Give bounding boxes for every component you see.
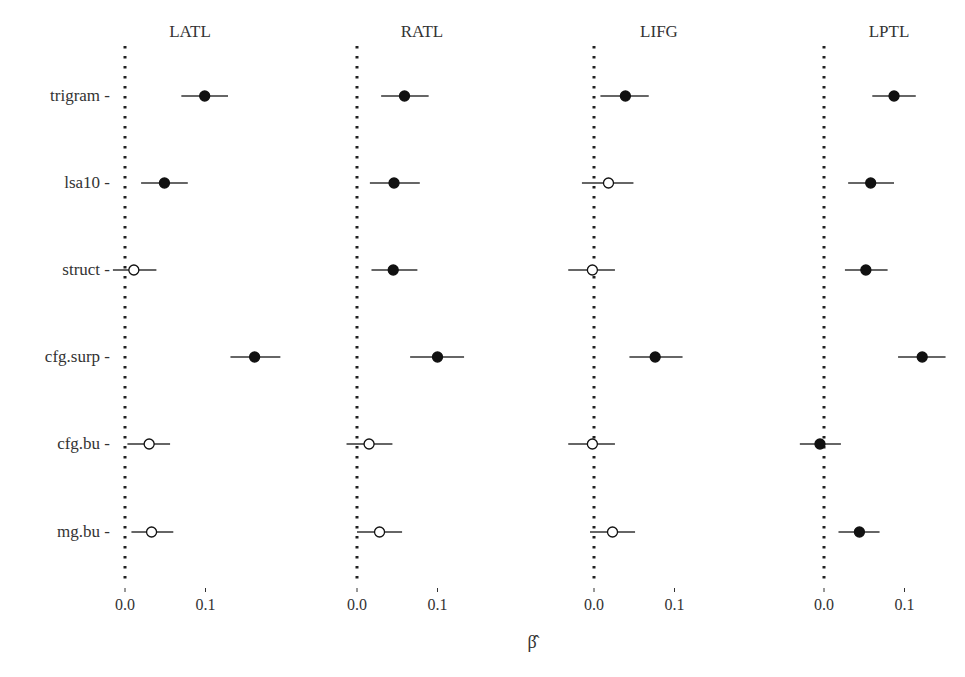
estimate-point-lsa10 [159,178,169,188]
estimate-point-lsa10 [866,178,876,188]
x-tick-label: 0.0 [584,596,604,613]
estimate-point-lsa10 [603,178,613,188]
y-label-trigram: trigram - [50,86,110,105]
y-axis-labels: trigram -lsa10 -struct -cfg.surp -cfg.bu… [45,86,110,541]
panel-ratl: 0.00.1 [347,46,465,613]
forest-plot: LATLRATLLIFGLPTL trigram -lsa10 -struct … [0,0,965,677]
x-tick-label: 0.0 [347,596,367,613]
x-tick-label: 0.1 [196,596,216,613]
estimate-point-struct [388,265,398,275]
estimate-point-mg-bu [375,527,385,537]
estimate-point-struct [587,265,597,275]
y-label-mg-bu: mg.bu - [57,522,110,541]
estimate-point-trigram [889,91,899,101]
panel-latl: 0.00.1 [113,46,280,613]
y-label-struct: struct - [62,260,110,279]
panel-title-lifg: LIFG [640,22,678,41]
panels: 0.00.10.00.10.00.10.00.1 [113,46,946,613]
y-label-lsa10: lsa10 - [64,173,110,192]
estimate-point-cfg-surp [250,352,260,362]
estimate-point-cfg-bu [587,439,597,449]
estimate-point-cfg-bu [144,439,154,449]
estimate-point-cfg-bu [815,439,825,449]
estimate-point-trigram [620,91,630,101]
panel-title-ratl: RATL [401,22,444,41]
panel-titles: LATLRATLLIFGLPTL [169,22,909,41]
panel-lptl: 0.00.1 [800,46,946,613]
panel-title-latl: LATL [169,22,211,41]
estimate-point-cfg-surp [650,352,660,362]
y-label-cfg-surp: cfg.surp - [45,347,110,366]
x-axis-title: β̂ [527,632,539,652]
x-tick-label: 0.1 [895,596,915,613]
x-tick-label: 0.1 [665,596,685,613]
y-label-cfg-bu: cfg.bu - [57,434,110,453]
estimate-point-trigram [200,91,210,101]
estimate-point-mg-bu [147,527,157,537]
x-tick-label: 0.0 [814,596,834,613]
estimate-point-cfg-bu [364,439,374,449]
x-tick-label: 0.1 [428,596,448,613]
estimate-point-mg-bu [854,527,864,537]
panel-lifg: 0.00.1 [568,46,684,613]
estimate-point-struct [129,265,139,275]
estimate-point-cfg-surp [917,352,927,362]
estimate-point-struct [861,265,871,275]
estimate-point-trigram [399,91,409,101]
panel-title-lptl: LPTL [869,22,910,41]
x-tick-label: 0.0 [115,596,135,613]
estimate-point-lsa10 [389,178,399,188]
estimate-point-mg-bu [608,527,618,537]
estimate-point-cfg-surp [433,352,443,362]
